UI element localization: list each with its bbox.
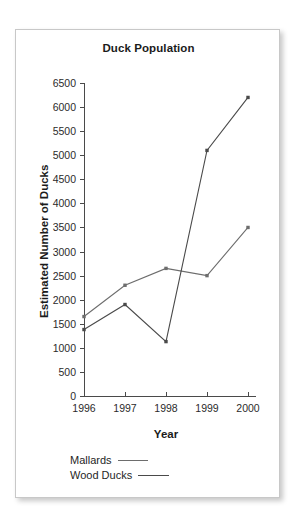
screenshot-root: Duck Population Estimated Number of Duck… [0,0,296,528]
data-point-marker [164,267,167,270]
legend-item-mallards: Mallards [70,454,169,469]
plot-area: Estimated Number of Ducks 05001000150020… [16,30,281,499]
legend-swatch-mallards [118,460,148,461]
legend-label-mallards: Mallards [70,454,112,466]
legend-swatch-wood-ducks [138,475,169,476]
data-point-marker [205,149,208,152]
data-point-marker [123,303,126,306]
data-point-marker [123,284,126,287]
data-point-marker [246,226,249,229]
chart-legend: Mallards Wood Ducks [70,454,169,484]
x-axis-title: Year [84,428,248,440]
data-point-marker [82,328,85,331]
data-point-marker [205,274,208,277]
legend-label-wood-ducks: Wood Ducks [70,469,132,481]
legend-item-wood-ducks: Wood Ducks [70,469,169,484]
data-point-marker [246,96,249,99]
chart-card: Duck Population Estimated Number of Duck… [15,29,280,498]
data-point-marker [82,315,85,318]
data-point-marker [164,340,167,343]
series-line-wood-ducks [84,97,248,341]
series-line-mallards [84,227,248,316]
